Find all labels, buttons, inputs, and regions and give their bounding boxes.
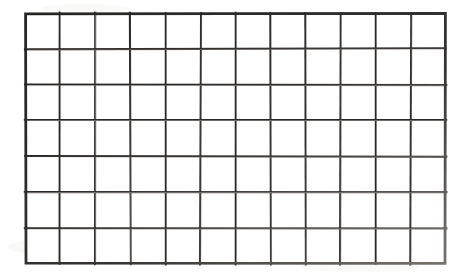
scan-noise-blotch bbox=[40, 4, 130, 13]
grid-cell[interactable] bbox=[377, 193, 410, 226]
grid-line-vertical bbox=[200, 13, 201, 264]
grid-cell[interactable] bbox=[131, 86, 164, 119]
grid-line-horizontal bbox=[25, 48, 446, 49]
grid-cell[interactable] bbox=[237, 86, 270, 119]
grid-line-vertical bbox=[130, 13, 131, 264]
grid-cell[interactable] bbox=[237, 14, 270, 47]
grid-cell[interactable] bbox=[26, 229, 59, 262]
grid-cell[interactable] bbox=[307, 122, 340, 155]
grid-cell[interactable] bbox=[272, 86, 305, 119]
grid-cell[interactable] bbox=[61, 193, 94, 226]
grid-cell[interactable] bbox=[342, 14, 375, 47]
grid-cell[interactable] bbox=[202, 122, 235, 155]
grid-cell[interactable] bbox=[167, 158, 200, 191]
grid-cell[interactable] bbox=[307, 14, 340, 47]
grid-cell[interactable] bbox=[131, 158, 164, 191]
grid-cell[interactable] bbox=[412, 14, 445, 47]
grid-line-horizontal bbox=[25, 85, 446, 86]
grid-cell[interactable] bbox=[307, 158, 340, 191]
grid-cell[interactable] bbox=[96, 122, 129, 155]
grid-cell[interactable] bbox=[96, 14, 129, 47]
grid-cell[interactable] bbox=[96, 158, 129, 191]
grid-cell[interactable] bbox=[202, 193, 235, 226]
grid-line-vertical bbox=[305, 13, 306, 264]
grid-cell[interactable] bbox=[131, 14, 164, 47]
grid-cell[interactable] bbox=[342, 158, 375, 191]
grid-cell[interactable] bbox=[61, 14, 94, 47]
grid-cell[interactable] bbox=[202, 14, 235, 47]
grid-cell[interactable] bbox=[412, 50, 445, 83]
grid-cell[interactable] bbox=[272, 193, 305, 226]
grid-cell[interactable] bbox=[377, 229, 410, 262]
grid-cell[interactable] bbox=[167, 86, 200, 119]
grid-cell[interactable] bbox=[237, 122, 270, 155]
grid-cell[interactable] bbox=[96, 229, 129, 262]
grid-cell[interactable] bbox=[237, 229, 270, 262]
grid-cell[interactable] bbox=[26, 193, 59, 226]
grid-worksheet[interactable] bbox=[25, 13, 446, 264]
grid-cell[interactable] bbox=[167, 229, 200, 262]
grid-cell[interactable] bbox=[131, 229, 164, 262]
grid-cell[interactable] bbox=[272, 158, 305, 191]
grid-cell[interactable] bbox=[377, 50, 410, 83]
grid-cell[interactable] bbox=[412, 122, 445, 155]
grid-cell[interactable] bbox=[237, 158, 270, 191]
grid-cell[interactable] bbox=[26, 122, 59, 155]
grid-svg bbox=[25, 13, 446, 264]
grid-cell[interactable] bbox=[131, 50, 164, 83]
grid-cell[interactable] bbox=[167, 14, 200, 47]
grid-cell[interactable] bbox=[412, 158, 445, 191]
grid-cell[interactable] bbox=[96, 193, 129, 226]
grid-cell[interactable] bbox=[272, 50, 305, 83]
grid-cell[interactable] bbox=[342, 229, 375, 262]
grid-cell[interactable] bbox=[96, 50, 129, 83]
grid-cell[interactable] bbox=[61, 86, 94, 119]
grid-cell[interactable] bbox=[307, 193, 340, 226]
grid-cell[interactable] bbox=[272, 122, 305, 155]
grid-cell[interactable] bbox=[342, 193, 375, 226]
grid-line-vertical bbox=[270, 13, 271, 264]
grid-cell[interactable] bbox=[272, 14, 305, 47]
page-canvas bbox=[0, 0, 469, 278]
grid-cell[interactable] bbox=[167, 50, 200, 83]
grid-cell[interactable] bbox=[377, 86, 410, 119]
grid-cell[interactable] bbox=[377, 14, 410, 47]
grid-line-vertical bbox=[410, 13, 411, 264]
grid-cell[interactable] bbox=[131, 122, 164, 155]
grid-line-horizontal bbox=[25, 156, 446, 157]
grid-cell[interactable] bbox=[96, 86, 129, 119]
grid-cell[interactable] bbox=[377, 158, 410, 191]
grid-cell[interactable] bbox=[377, 122, 410, 155]
grid-cell[interactable] bbox=[26, 158, 59, 191]
grid-cell[interactable] bbox=[342, 122, 375, 155]
grid-cell[interactable] bbox=[61, 158, 94, 191]
grid-cell[interactable] bbox=[26, 14, 59, 47]
grid-cell[interactable] bbox=[272, 229, 305, 262]
grid-cell[interactable] bbox=[202, 158, 235, 191]
grid-cell[interactable] bbox=[202, 50, 235, 83]
grid-cell[interactable] bbox=[61, 50, 94, 83]
grid-cell[interactable] bbox=[237, 50, 270, 83]
grid-cell[interactable] bbox=[61, 122, 94, 155]
grid-cell[interactable] bbox=[307, 86, 340, 119]
grid-cell[interactable] bbox=[61, 229, 94, 262]
grid-line-vertical bbox=[340, 13, 341, 264]
grid-cell[interactable] bbox=[412, 229, 445, 262]
grid-cell[interactable] bbox=[412, 86, 445, 119]
grid-cell[interactable] bbox=[26, 86, 59, 119]
grid-cell[interactable] bbox=[237, 193, 270, 226]
grid-cell[interactable] bbox=[342, 50, 375, 83]
grid-cell[interactable] bbox=[202, 86, 235, 119]
grid-cell[interactable] bbox=[412, 193, 445, 226]
grid-cell[interactable] bbox=[342, 86, 375, 119]
grid-cell[interactable] bbox=[307, 229, 340, 262]
grid-cell[interactable] bbox=[131, 193, 164, 226]
grid-cell[interactable] bbox=[307, 50, 340, 83]
grid-cell[interactable] bbox=[167, 122, 200, 155]
grid-cell[interactable] bbox=[26, 50, 59, 83]
grid-cell[interactable] bbox=[202, 229, 235, 262]
grid-cell[interactable] bbox=[167, 193, 200, 226]
